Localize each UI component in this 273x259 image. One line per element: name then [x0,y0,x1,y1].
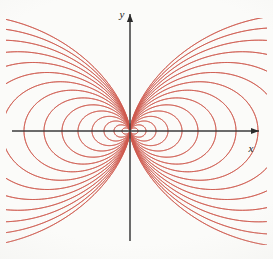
dipole-field-figure: x y [0,0,273,259]
y-axis-label: y [119,8,125,20]
y-axis-arrowhead-icon [127,14,133,22]
x-axis-label: x [248,142,254,154]
